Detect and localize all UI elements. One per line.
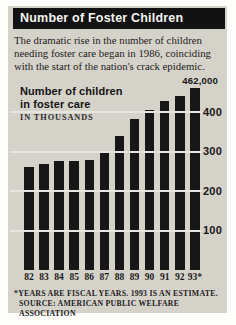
gridline <box>10 151 202 153</box>
bar <box>54 161 64 270</box>
bar <box>85 160 95 270</box>
chart-plot: 828384858687888990919293*400300200100 <box>8 6 227 313</box>
page: Number of Foster Children The dramatic r… <box>0 0 236 325</box>
x-tick-label: 93* <box>186 272 204 282</box>
bar <box>69 161 79 270</box>
footnote-line: *YEARS ARE FISCAL YEARS. 1993 IS AN ESTI… <box>14 289 227 299</box>
chart-card: Number of Foster Children The dramatic r… <box>8 6 227 313</box>
footnote-line: SOURCE: AMERICAN PUBLIC WELFARE ASSOCIAT… <box>14 299 227 319</box>
bar <box>24 167 34 270</box>
bar <box>190 88 200 270</box>
y-tick-label: 100 <box>203 224 233 236</box>
y-tick-label: 400 <box>203 106 233 118</box>
y-tick-label: 200 <box>203 185 233 197</box>
bar <box>115 136 125 270</box>
bar <box>39 164 49 270</box>
gridline <box>10 111 202 113</box>
y-tick-label: 300 <box>203 145 233 157</box>
bar <box>175 96 185 270</box>
gridline <box>10 230 202 232</box>
bar <box>160 101 170 270</box>
gridline <box>10 190 202 192</box>
bar <box>130 119 140 270</box>
bar <box>100 152 110 270</box>
footnotes: *YEARS ARE FISCAL YEARS. 1993 IS AN ESTI… <box>14 289 227 319</box>
